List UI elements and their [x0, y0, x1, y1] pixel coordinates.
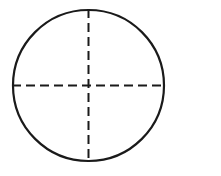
circle-diagram-svg	[0, 0, 221, 176]
diagram-background	[0, 0, 221, 176]
figure-canvas: Circle with dashed horizontal and vertic…	[0, 0, 221, 176]
